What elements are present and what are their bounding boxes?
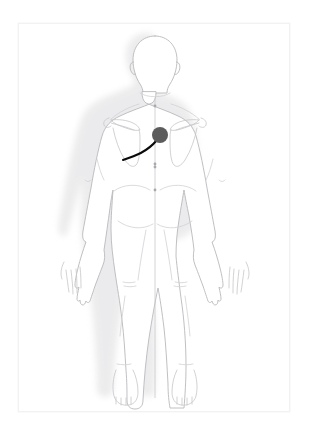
right-hand-finger-lines [229, 267, 244, 294]
view-label: Posterior (back) view [0, 0, 1, 1]
right-thumb-line [246, 262, 249, 279]
right-calf-line [185, 296, 190, 336]
midline-tick [154, 163, 157, 166]
left-thumb-line [61, 262, 64, 279]
midline-tick [154, 166, 157, 169]
body-chart-app: Body Chart Posterior (back) view [0, 0, 311, 425]
body-figure-svg[interactable] [19, 24, 291, 413]
midline-tick [154, 105, 157, 108]
left-ankle-line [117, 364, 131, 365]
page-title: Body Chart [0, 0, 1, 1]
right-acromion [199, 118, 206, 127]
right-elbow-mark [219, 180, 225, 182]
pain-marker-dot[interactable] [152, 127, 168, 143]
right-knee-crease-line [175, 282, 187, 283]
right-knee-crease-line-2 [174, 286, 186, 287]
midline-tick [154, 189, 157, 192]
right-flank-line [206, 159, 213, 180]
body-chart-frame[interactable] [18, 23, 290, 412]
